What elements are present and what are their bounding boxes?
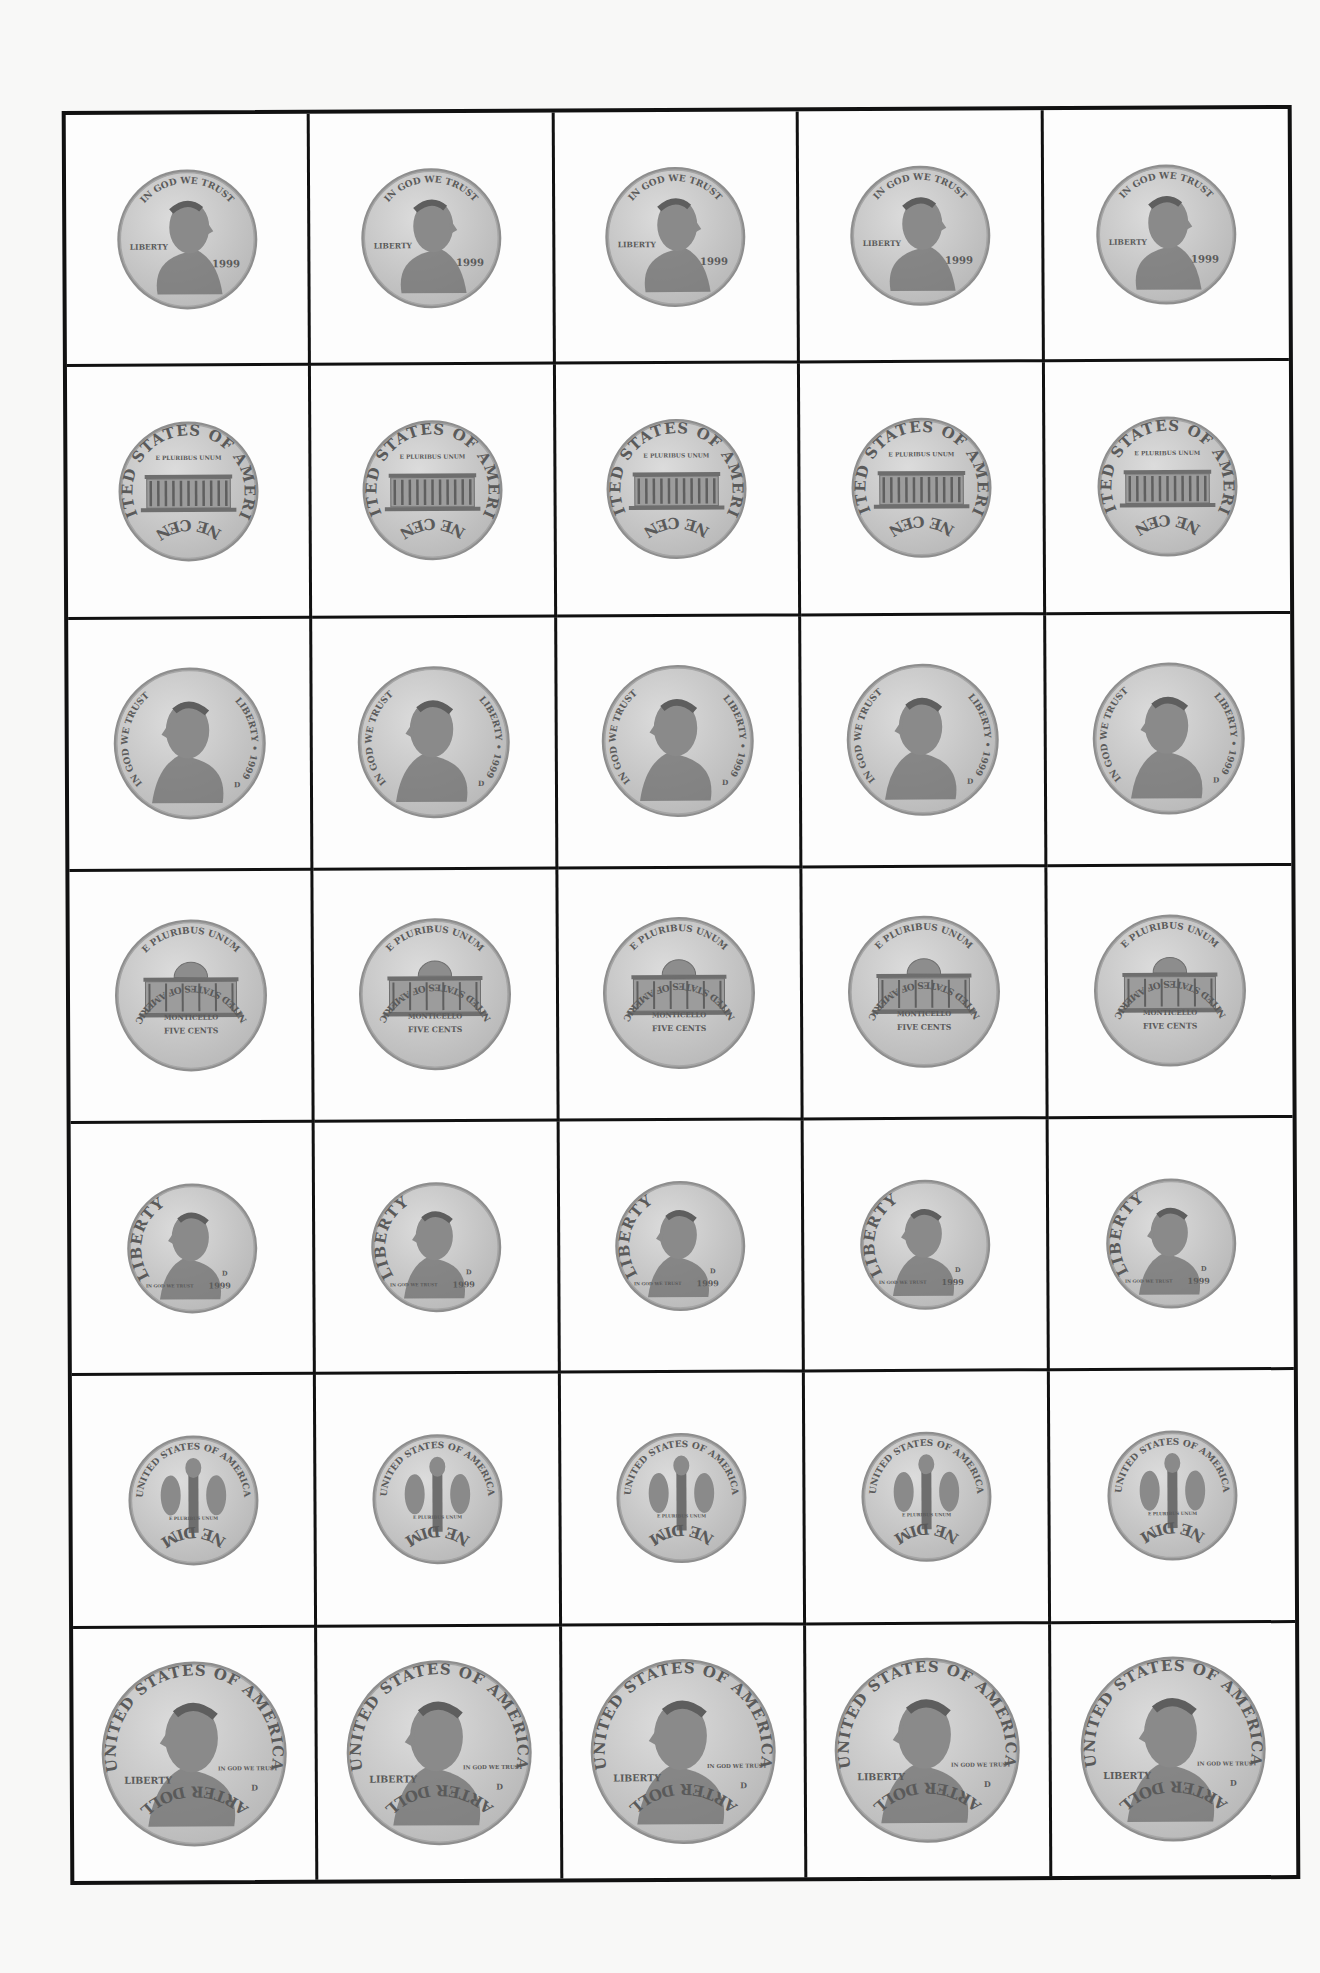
mint-mark: D (478, 779, 485, 788)
year-text: 1999 (212, 258, 240, 269)
nickel-obverse-coin[interactable]: IN GOD WE TRUSTLIBERTY • 1999D (110, 664, 269, 823)
motto-text: E PLURIBUS UNUM (902, 1512, 951, 1517)
penny-reverse-coin[interactable]: UNITED STATES OF AMERICAE PLURIBUS UNUMO… (115, 418, 262, 565)
grid-cell-nickel-reverse: E PLURIBUS UNUMMONTICELLOFIVE CENTSUNITE… (803, 867, 1049, 1120)
penny-obverse-coin[interactable]: IN GOD WE TRUSTLIBERTY1999 (358, 164, 505, 311)
penny-obverse-coin[interactable]: IN GOD WE TRUSTLIBERTY1999 (114, 166, 261, 313)
penny-reverse-coin[interactable]: UNITED STATES OF AMERICAE PLURIBUS UNUMO… (359, 417, 506, 564)
denomination-text: FIVE CENTS (408, 1026, 463, 1035)
nickel-obverse-coin[interactable]: IN GOD WE TRUSTLIBERTY • 1999D (354, 663, 513, 822)
dime-reverse-coin[interactable]: UNITED STATES OF AMERICAE PLURIBUS UNUMO… (858, 1429, 995, 1566)
building-label: MONTICELLO (652, 1012, 706, 1020)
building-label: MONTICELLO (1143, 1009, 1197, 1017)
motto-text: E PLURIBUS UNUM (657, 1513, 706, 1518)
mint-mark: D (251, 1784, 258, 1793)
grid-cell-quarter-obverse: UNITED STATES OF AMERICALIBERTYIN GOD WE… (806, 1624, 1052, 1877)
denomination-text: FIVE CENTS (164, 1027, 219, 1036)
grid-cell-dime-obverse: LIBERTYIN GOD WE TRUST1999D (71, 1123, 317, 1376)
lincoln-memorial-icon (140, 474, 236, 512)
penny-reverse-coin[interactable]: UNITED STATES OF AMERICAE PLURIBUS UNUMO… (604, 416, 751, 563)
liberty-text: LIBERTY (613, 1773, 661, 1784)
building-label: MONTICELLO (164, 1014, 218, 1022)
year-text: 1999 (700, 255, 728, 266)
motto-text: E PLURIBUS UNUM (169, 1516, 218, 1521)
year-text: 1999 (697, 1278, 720, 1288)
liberty-text: LIBERTY (863, 239, 902, 248)
liberty-text: LIBERTY (1104, 1770, 1152, 1781)
quarter-obverse-coin[interactable]: UNITED STATES OF AMERICALIBERTYIN GOD WE… (1078, 1653, 1270, 1845)
motto-text: IN GOD WE TRUST (1197, 1761, 1258, 1767)
motto-text: IN GOD WE TRUST (390, 1282, 438, 1287)
grid-cell-penny-obverse: IN GOD WE TRUSTLIBERTY1999 (554, 111, 800, 364)
penny-reverse-coin[interactable]: UNITED STATES OF AMERICAE PLURIBUS UNUMO… (1094, 413, 1241, 560)
grid-cell-dime-obverse: LIBERTYIN GOD WE TRUST1999D (804, 1119, 1050, 1372)
grid-cell-quarter-obverse: UNITED STATES OF AMERICALIBERTYIN GOD WE… (562, 1625, 808, 1878)
grid-cell-nickel-obverse: IN GOD WE TRUSTLIBERTY • 1999D (557, 616, 803, 869)
penny-reverse-coin[interactable]: UNITED STATES OF AMERICAE PLURIBUS UNUMO… (848, 414, 995, 561)
dime-obverse-coin[interactable]: LIBERTYIN GOD WE TRUST1999D (857, 1176, 994, 1313)
grid-cell-penny-reverse: UNITED STATES OF AMERICAE PLURIBUS UNUMO… (311, 365, 557, 618)
motto-text: IN GOD WE TRUST (462, 1764, 523, 1770)
nickel-reverse-coin[interactable]: E PLURIBUS UNUMMONTICELLOFIVE CENTSUNITE… (356, 915, 515, 1074)
grid-cell-quarter-obverse: UNITED STATES OF AMERICALIBERTYIN GOD WE… (317, 1626, 563, 1879)
nickel-reverse-coin[interactable]: E PLURIBUS UNUMMONTICELLOFIVE CENTSUNITE… (844, 913, 1003, 1072)
dime-reverse-coin[interactable]: UNITED STATES OF AMERICAE PLURIBUS UNUMO… (369, 1431, 506, 1568)
nickel-obverse-coin[interactable]: IN GOD WE TRUSTLIBERTY • 1999D (1089, 659, 1248, 818)
nickel-reverse-coin[interactable]: E PLURIBUS UNUMMONTICELLOFIVE CENTSUNITE… (600, 914, 759, 1073)
year-text: 1999 (1187, 1275, 1210, 1285)
grid-cell-dime-reverse: UNITED STATES OF AMERICAE PLURIBUS UNUMO… (316, 1374, 562, 1627)
grid-cell-nickel-reverse: E PLURIBUS UNUMMONTICELLOFIVE CENTSUNITE… (1047, 866, 1293, 1119)
dime-reverse-coin[interactable]: UNITED STATES OF AMERICAE PLURIBUS UNUMO… (1104, 1427, 1241, 1564)
nickel-reverse-coin[interactable]: E PLURIBUS UNUMMONTICELLOFIVE CENTSUNITE… (111, 916, 270, 1075)
grid-cell-penny-reverse: UNITED STATES OF AMERICAE PLURIBUS UNUMO… (1045, 361, 1291, 614)
dime-obverse-coin[interactable]: LIBERTYIN GOD WE TRUST1999D (612, 1177, 749, 1314)
quarter-obverse-coin[interactable]: UNITED STATES OF AMERICALIBERTYIN GOD WE… (587, 1656, 779, 1848)
motto-text: E PLURIBUS UNUM (644, 451, 711, 458)
penny-obverse-coin[interactable]: IN GOD WE TRUSTLIBERTY1999 (1093, 161, 1240, 308)
dime-obverse-coin[interactable]: LIBERTYIN GOD WE TRUST1999D (124, 1180, 261, 1317)
liberty-text: LIBERTY (124, 1775, 172, 1786)
motto-text: IN GOD WE TRUST (879, 1280, 927, 1285)
grid-cell-quarter-obverse: UNITED STATES OF AMERICALIBERTYIN GOD WE… (1051, 1623, 1297, 1876)
penny-obverse-coin[interactable]: IN GOD WE TRUSTLIBERTY1999 (847, 162, 994, 309)
lincoln-memorial-icon (629, 472, 725, 510)
nickel-reverse-coin[interactable]: E PLURIBUS UNUMMONTICELLOFIVE CENTSUNITE… (1090, 912, 1249, 1071)
grid-cell-nickel-reverse: E PLURIBUS UNUMMONTICELLOFIVE CENTSUNITE… (558, 868, 804, 1121)
grid-cell-dime-obverse: LIBERTYIN GOD WE TRUST1999D (315, 1122, 561, 1375)
motto-text: E PLURIBUS UNUM (1134, 449, 1201, 456)
penny-obverse-coin[interactable]: IN GOD WE TRUSTLIBERTY1999 (602, 163, 749, 310)
grid-cell-dime-reverse: UNITED STATES OF AMERICAE PLURIBUS UNUMO… (805, 1372, 1051, 1625)
quarter-obverse-coin[interactable]: UNITED STATES OF AMERICALIBERTYIN GOD WE… (343, 1657, 535, 1849)
dime-obverse-coin[interactable]: LIBERTYIN GOD WE TRUST1999D (1103, 1175, 1240, 1312)
mint-mark: D (722, 778, 729, 787)
dime-obverse-coin[interactable]: LIBERTYIN GOD WE TRUST1999D (368, 1179, 505, 1316)
year-text: 1999 (456, 257, 484, 268)
dime-reverse-coin[interactable]: UNITED STATES OF AMERICAE PLURIBUS UNUMO… (125, 1432, 262, 1569)
mint-mark: D (496, 1783, 503, 1792)
liberty-text: LIBERTY (858, 1771, 906, 1782)
mint-mark: D (222, 1269, 228, 1277)
year-text: 1999 (941, 1277, 964, 1287)
grid-cell-penny-reverse: UNITED STATES OF AMERICAE PLURIBUS UNUMO… (800, 362, 1046, 615)
year-text: 1999 (208, 1280, 231, 1290)
mint-mark: D (711, 1267, 717, 1275)
grid-cell-dime-obverse: LIBERTYIN GOD WE TRUST1999D (559, 1121, 805, 1374)
liberty-text: LIBERTY (618, 240, 657, 249)
quarter-obverse-coin[interactable]: UNITED STATES OF AMERICALIBERTYIN GOD WE… (832, 1655, 1024, 1847)
motto-text: IN GOD WE TRUST (951, 1762, 1012, 1768)
quarter-obverse-coin[interactable]: UNITED STATES OF AMERICALIBERTYIN GOD WE… (98, 1658, 290, 1850)
mint-mark: D (740, 1782, 747, 1791)
nickel-obverse-coin[interactable]: IN GOD WE TRUSTLIBERTY • 1999D (843, 661, 1002, 820)
mint-mark: D (984, 1780, 991, 1789)
grid-cell-nickel-reverse: E PLURIBUS UNUMMONTICELLOFIVE CENTSUNITE… (314, 869, 560, 1122)
denomination-text: FIVE CENTS (897, 1023, 952, 1032)
mint-mark: D (955, 1266, 961, 1274)
dime-reverse-coin[interactable]: UNITED STATES OF AMERICAE PLURIBUS UNUMO… (614, 1430, 751, 1567)
motto-text: IN GOD WE TRUST (1125, 1278, 1173, 1283)
motto-text: E PLURIBUS UNUM (155, 454, 222, 461)
nickel-obverse-coin[interactable]: IN GOD WE TRUSTLIBERTY • 1999D (599, 662, 758, 821)
motto-text: E PLURIBUS UNUM (1148, 1511, 1197, 1516)
lincoln-memorial-icon (385, 473, 481, 511)
lincoln-memorial-icon (1119, 470, 1215, 508)
coin-cutout-sheet: IN GOD WE TRUSTLIBERTY1999IN GOD WE TRUS… (62, 105, 1301, 1885)
